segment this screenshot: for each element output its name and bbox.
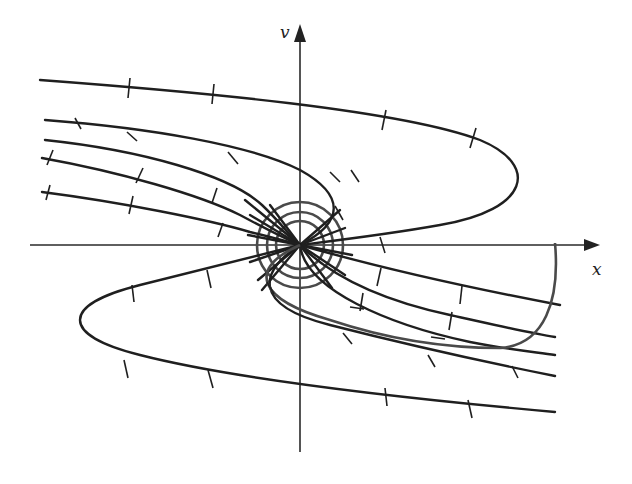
tick-mark	[377, 268, 381, 286]
tick-mark	[212, 188, 217, 203]
tick-mark	[351, 170, 359, 182]
x-axis-label: x	[592, 259, 602, 279]
tick-mark	[228, 152, 238, 164]
tick-mark	[208, 370, 213, 388]
tick-mark	[431, 337, 445, 339]
tick-mark	[428, 355, 435, 367]
trajectory-upper-3	[42, 158, 300, 245]
tick-mark	[382, 110, 386, 130]
tick-mark	[385, 388, 387, 406]
trajectory-lower-3	[300, 245, 555, 355]
x-axis-arrow-icon	[584, 239, 600, 251]
tick-mark	[330, 172, 340, 182]
v-axis-arrow-icon	[294, 24, 306, 42]
phase-portrait-diagram: x v	[0, 0, 632, 484]
trajectory-upper-1	[45, 120, 334, 245]
tick-mark	[128, 78, 130, 98]
tick-mark	[212, 84, 214, 104]
tick-mark	[47, 150, 53, 165]
tick-mark	[343, 333, 352, 344]
tick-mark	[460, 286, 462, 304]
tick-mark	[127, 132, 137, 141]
tick-mark	[124, 360, 128, 378]
tick-mark	[207, 270, 211, 288]
v-axis-label: v	[280, 22, 290, 42]
